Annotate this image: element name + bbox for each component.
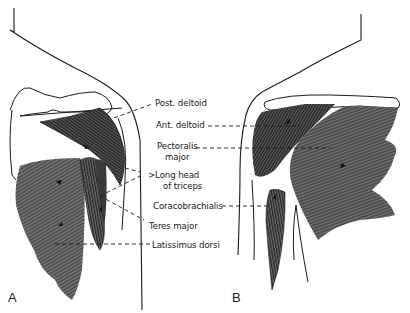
- label-long-head-triceps-line2: of triceps: [163, 181, 202, 191]
- panel-label-a: A: [8, 290, 17, 305]
- label-post-deltoid: Post. deltoid: [155, 98, 207, 108]
- panel-b-illustration: [238, 14, 400, 290]
- label-pectoralis-major-line2: major: [165, 152, 189, 162]
- anatomy-illustration: [0, 0, 410, 313]
- label-pectoralis-major-line1: Pectoralis: [157, 141, 198, 151]
- label-coracobrachialis: Coracobrachialis: [153, 201, 223, 211]
- label-ant-deltoid: Ant. deltoid: [156, 120, 205, 130]
- latissimus-dorsi-a: [16, 158, 85, 300]
- coracobrachialis-b: [266, 189, 285, 290]
- label-long-head-triceps-line1: >Long head: [148, 170, 199, 180]
- panel-label-b: B: [232, 290, 241, 305]
- label-teres-major: Teres major: [149, 221, 198, 231]
- panel-a-illustration: [10, 8, 142, 310]
- label-latissimus-dorsi: Latissimus dorsi: [152, 240, 220, 250]
- anatomy-figure: Post. deltoid Ant. deltoid Pectoralis ma…: [0, 0, 410, 313]
